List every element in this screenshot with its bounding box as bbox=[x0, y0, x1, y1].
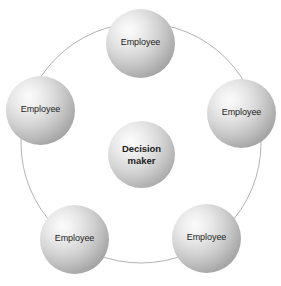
decision-maker-node-label: Decisionmaker bbox=[122, 143, 161, 166]
decision-maker-label-line-2: maker bbox=[128, 155, 156, 166]
decision-maker-label-line-1: Decision bbox=[122, 143, 161, 154]
employee-node-top[interactable]: Employee bbox=[106, 9, 175, 78]
decision-maker-node[interactable]: Decisionmaker bbox=[108, 121, 175, 188]
employee-node-bottom-left[interactable]: Employee bbox=[40, 205, 109, 274]
decision-maker-diagram: Employee Employee Employee Employee Empl… bbox=[0, 0, 281, 286]
employee-node-left-label: Employee bbox=[21, 104, 61, 115]
employee-node-bottom-right-label: Employee bbox=[187, 232, 227, 243]
employee-node-top-label: Employee bbox=[121, 37, 161, 48]
employee-node-right[interactable]: Employee bbox=[207, 79, 276, 148]
employee-node-bottom-left-label: Employee bbox=[55, 233, 95, 244]
employee-node-left[interactable]: Employee bbox=[6, 76, 75, 145]
employee-node-right-label: Employee bbox=[222, 107, 262, 118]
employee-node-bottom-right[interactable]: Employee bbox=[172, 204, 241, 273]
